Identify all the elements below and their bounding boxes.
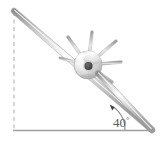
- diagram-canvas: 40°: [0, 0, 165, 143]
- angle-degree-symbol: °: [126, 116, 129, 125]
- physics-diagram-bead-on-rod: 40°: [0, 0, 165, 143]
- angle-label: 40°: [113, 115, 129, 130]
- bead-hole: [83, 61, 94, 72]
- angle-label-value: 40: [113, 115, 126, 130]
